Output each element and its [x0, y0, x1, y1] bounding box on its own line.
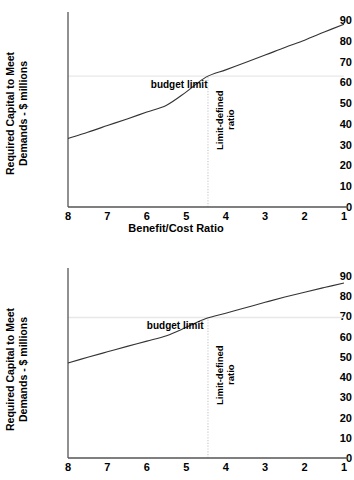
plot-area-top	[0, 0, 352, 240]
budget-limit-annotation-top: budget limit	[151, 79, 208, 90]
data-curve	[68, 283, 344, 363]
x-axis-label-top: Benefit/Cost Ratio	[0, 222, 352, 234]
budget-limit-annotation-bottom: budget limit	[147, 320, 204, 331]
chart-bottom: Required Capital to Meet Demands - $ mil…	[0, 240, 352, 480]
chart-top: Required Capital to Meet Demands - $ mil…	[0, 0, 352, 240]
plot-area-bottom	[0, 240, 352, 480]
limit-defined-ratio-annotation-bottom: Limit-defined ratio	[214, 335, 236, 415]
limit-defined-ratio-annotation-top: Limit-defined ratio	[214, 80, 236, 160]
